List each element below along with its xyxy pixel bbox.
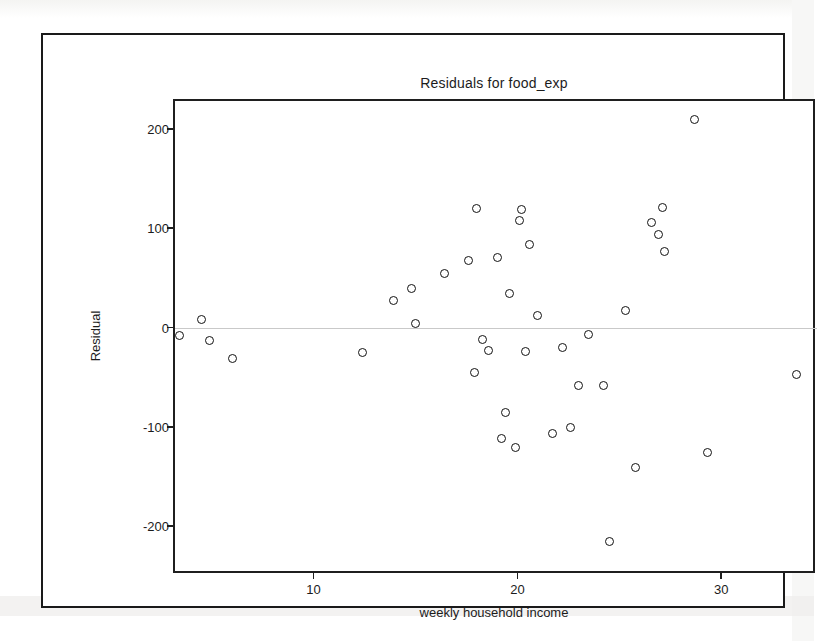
data-point [197, 315, 206, 324]
data-point [517, 205, 526, 214]
data-point [501, 408, 510, 417]
data-point [690, 115, 699, 124]
data-point [658, 203, 667, 212]
chart-title: Residuals for food_exp [173, 75, 815, 91]
y-tick-label: 0 [162, 320, 169, 335]
data-point [478, 335, 487, 344]
data-point [228, 354, 237, 363]
data-point [631, 463, 640, 472]
data-point [358, 348, 367, 357]
x-tick-mark [313, 571, 315, 579]
data-point [654, 230, 663, 239]
y-tick-label: 100 [147, 221, 169, 236]
y-tick-label: -200 [143, 519, 169, 534]
data-point [533, 311, 542, 320]
zero-reference-line [175, 328, 817, 329]
y-tick-label: -100 [143, 419, 169, 434]
data-point [464, 256, 473, 265]
x-axis-label: weekly household income [173, 605, 815, 620]
data-point [703, 448, 712, 457]
data-point [205, 336, 214, 345]
data-point [511, 443, 520, 452]
data-point [497, 434, 506, 443]
data-point [521, 347, 530, 356]
data-point [660, 247, 669, 256]
data-point [599, 381, 608, 390]
data-point [472, 204, 481, 213]
graph-window: Residuals for food_exp Residual 2001000-… [41, 33, 785, 608]
data-point [484, 346, 493, 355]
data-point [574, 381, 583, 390]
data-point [411, 319, 420, 328]
x-tick-label: 20 [510, 582, 524, 597]
scan-artifact-top [0, 0, 814, 18]
data-point [621, 306, 630, 315]
data-point [515, 216, 524, 225]
data-point [558, 343, 567, 352]
data-point [584, 330, 593, 339]
x-tick-label: 30 [714, 582, 728, 597]
data-point [525, 240, 534, 249]
data-point [440, 269, 449, 278]
data-point [566, 423, 575, 432]
data-point [548, 429, 557, 438]
data-point [605, 537, 614, 546]
data-point [792, 370, 801, 379]
x-tick-label: 10 [306, 582, 320, 597]
y-tick-label: 200 [147, 121, 169, 136]
data-point [470, 368, 479, 377]
data-point [407, 284, 416, 293]
x-tick-mark [720, 571, 722, 579]
data-point [505, 289, 514, 298]
data-point [493, 253, 502, 262]
scatter-plot-area: 2001000-100-200102030 [175, 101, 813, 571]
plot-frame: 2001000-100-200102030 [173, 99, 815, 573]
data-point [389, 296, 398, 305]
data-point [175, 331, 184, 340]
y-axis-label: Residual [88, 311, 103, 362]
data-point [647, 218, 656, 227]
x-tick-mark [517, 571, 519, 579]
